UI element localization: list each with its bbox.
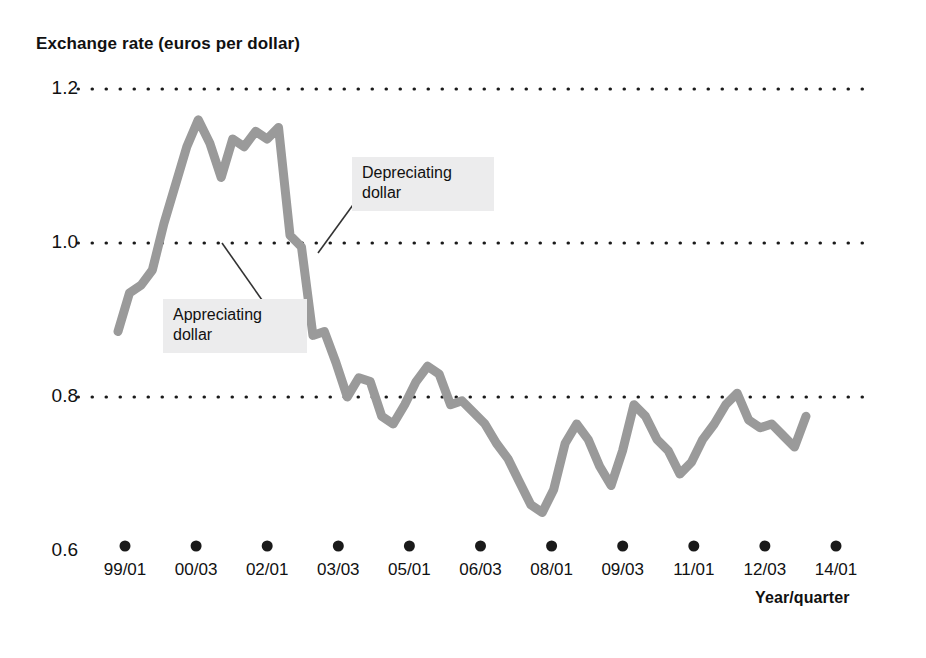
x-axis-tick-dot (333, 541, 344, 552)
x-axis-tick-label: 99/01 (85, 560, 165, 580)
y-axis-tick-label: 1.2 (32, 77, 78, 99)
exchange-rate-chart: Exchange rate (euros per dollar) 1.2 1.0… (0, 0, 926, 658)
x-axis-tick-dot (546, 541, 557, 552)
x-axis-tick-dot (262, 541, 273, 552)
x-axis-tick-label: 14/01 (796, 560, 876, 580)
x-axis-tick-label: 06/03 (441, 560, 521, 580)
x-axis-tick-label: 12/03 (725, 560, 805, 580)
x-axis-tick-dot (759, 541, 770, 552)
x-axis-tick-label: 08/01 (512, 560, 592, 580)
x-axis-tick-label: 09/03 (583, 560, 663, 580)
x-axis-tick-dot (120, 541, 131, 552)
y-axis-tick-label: 1.0 (32, 231, 78, 253)
x-axis-tick-marks (120, 541, 842, 552)
y-axis-tick-label: 0.6 (32, 539, 78, 561)
x-axis-tick-label: 11/01 (654, 560, 734, 580)
annotation-appreciating-dollar: Appreciating dollar (163, 299, 307, 353)
appreciating-leader-line (222, 243, 262, 300)
x-axis-tick-dot (688, 541, 699, 552)
x-axis-tick-label: 00/03 (156, 560, 236, 580)
x-axis-tick-dot (191, 541, 202, 552)
x-axis-title: Year/quarter (755, 589, 850, 607)
x-axis-tick-label: 02/01 (227, 560, 307, 580)
x-axis-tick-dot (617, 541, 628, 552)
x-axis-tick-dot (831, 541, 842, 552)
x-axis-tick-label: 03/03 (298, 560, 378, 580)
annotation-depreciating-dollar: Depreciating dollar (352, 157, 494, 211)
x-axis-tick-dot (475, 541, 486, 552)
y-axis-tick-label: 0.8 (32, 385, 78, 407)
x-axis-tick-label: 05/01 (369, 560, 449, 580)
x-axis-tick-dot (404, 541, 415, 552)
